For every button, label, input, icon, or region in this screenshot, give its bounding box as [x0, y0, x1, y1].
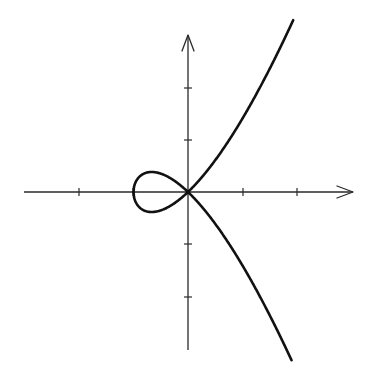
curve-upper-branch [134, 20, 294, 212]
nodal-cubic-plot [0, 0, 373, 384]
curve-lower-branch [134, 172, 292, 360]
